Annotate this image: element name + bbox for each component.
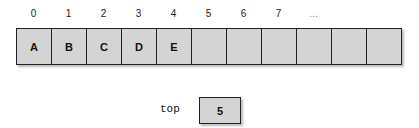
index-label: 3: [121, 8, 156, 19]
index-label: 2: [86, 8, 121, 19]
array-cell: B: [52, 29, 87, 64]
array-cell: A: [17, 29, 52, 64]
top-label: top: [160, 103, 180, 115]
array-cell: [192, 29, 227, 64]
stack-array: A B C D E: [16, 28, 402, 65]
index-label: 1: [51, 8, 86, 19]
index-label: 5: [191, 8, 226, 19]
array-cell: [297, 29, 332, 64]
index-ellipsis: ...: [296, 8, 331, 19]
array-cell: [262, 29, 297, 64]
index-label: 7: [261, 8, 296, 19]
array-cell: C: [87, 29, 122, 64]
array-cell: [367, 29, 401, 64]
index-label: 6: [226, 8, 261, 19]
array-cell: D: [122, 29, 157, 64]
array-cell: [332, 29, 367, 64]
index-label: 4: [156, 8, 191, 19]
array-cell: [227, 29, 262, 64]
array-cell: E: [157, 29, 192, 64]
index-label: 0: [16, 8, 51, 19]
top-value-box: 5: [199, 97, 241, 124]
